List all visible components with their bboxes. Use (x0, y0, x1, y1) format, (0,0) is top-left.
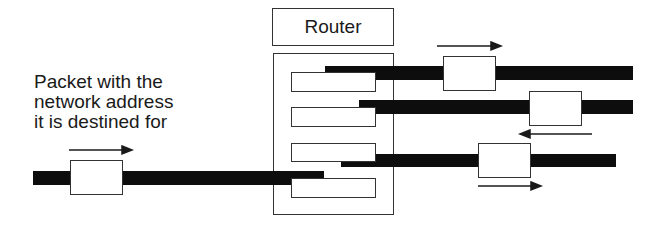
arrow-right-icon (478, 182, 541, 190)
direction-arrows (0, 0, 666, 228)
arrow-right-icon (69, 146, 132, 154)
arrow-right-icon (437, 42, 501, 50)
arrow-left-icon (520, 130, 592, 138)
